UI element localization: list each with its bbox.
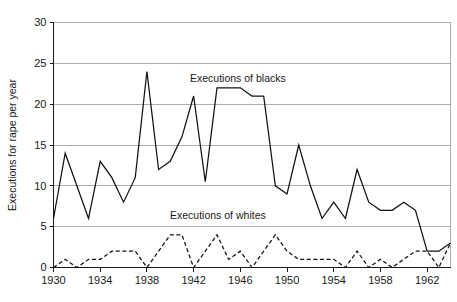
y-tick-label-0: 0 [40,261,46,273]
x-tick-label-1930: 1930 [41,274,65,286]
x-tick-label-1954: 1954 [321,274,345,286]
chart-background [0,0,457,302]
x-tick-label-1938: 1938 [135,274,159,286]
x-tick-label-1958: 1958 [368,274,392,286]
y-tick-label-25: 25 [34,57,46,69]
x-tick-label-1946: 1946 [228,274,252,286]
x-tick-label-1950: 1950 [275,274,299,286]
x-tick-label-1942: 1942 [181,274,205,286]
y-tick-label-5: 5 [40,220,46,232]
y-axis-title: Executions for rape per year [6,79,18,211]
y-tick-label-15: 15 [34,139,46,151]
series-label-blacks: Executions of blacks [190,72,286,84]
x-tick-label-1962: 1962 [415,274,439,286]
chart-container: 051015202530 193019341938194219461950195… [0,0,457,302]
y-tick-label-30: 30 [34,16,46,28]
x-tick-label-1934: 1934 [88,274,112,286]
series-label-whites: Executions of whites [170,209,266,221]
executions-for-rape-line-chart: 051015202530 193019341938194219461950195… [0,0,457,302]
y-tick-label-20: 20 [34,98,46,110]
y-tick-label-10: 10 [34,180,46,192]
